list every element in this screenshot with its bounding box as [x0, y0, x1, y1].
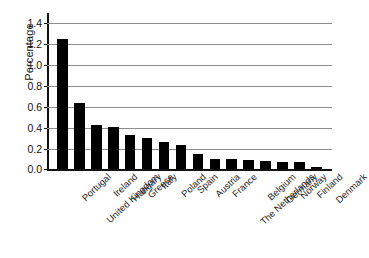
bar: [159, 142, 169, 169]
bars-group: [47, 13, 332, 169]
bar: [108, 127, 118, 170]
bar: [210, 159, 220, 169]
y-tick-label: 1.4: [27, 17, 42, 29]
bar: [176, 145, 186, 169]
bar: [125, 135, 135, 169]
y-tick-label: 0.2: [27, 143, 42, 155]
plot-area: 0.00.20.40.60.81.01.21.4: [47, 13, 332, 171]
x-axis-tick-labels: PortugalUnited KingdomIrelandHungaryGree…: [47, 171, 348, 258]
bar: [193, 154, 203, 170]
bar: [74, 103, 84, 170]
bar: [142, 138, 152, 169]
bar: [226, 159, 236, 169]
bar: [243, 160, 253, 169]
x-tick-label: Portugal: [79, 171, 112, 203]
bar: [277, 162, 287, 169]
y-tick-label: 1.0: [27, 59, 42, 71]
y-tick-label: 1.2: [27, 38, 42, 50]
bar: [57, 39, 67, 169]
y-tick-label: 0.8: [27, 80, 42, 92]
bar: [294, 162, 304, 169]
y-tick-label: 0.6: [27, 101, 42, 113]
y-tick-label: 0.4: [27, 122, 42, 134]
bar: [260, 161, 270, 169]
bar: [91, 125, 101, 170]
y-tick-label: 0.0: [27, 163, 42, 175]
